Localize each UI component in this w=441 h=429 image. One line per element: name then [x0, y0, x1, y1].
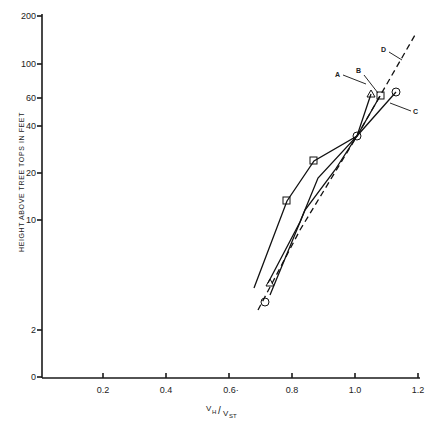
y-tick-20: 20: [26, 168, 36, 178]
svg-text:ST: ST: [229, 413, 237, 419]
x-tick-1.0: 1.0: [349, 385, 362, 395]
annotation-a: A: [335, 71, 340, 78]
x-tick-1.2: 1.2: [412, 385, 425, 395]
y-tick-100: 100: [21, 59, 36, 69]
annotation-c-leader: [390, 103, 411, 111]
square-marker: [377, 92, 384, 99]
y-axis-label: HEIGHT ABOVE TREE TOPS IN FEET: [18, 112, 25, 252]
x-tick-labels: 0.2 0.4 0.6· 0.8 1.0 1.2: [97, 385, 425, 395]
annotation-a-leader: [343, 75, 366, 84]
y-tick-40: 40: [26, 121, 36, 131]
annotation-d-leader: [389, 52, 402, 60]
y-tick-10: 10: [26, 215, 36, 225]
chart-canvas: 200 100 60 40 20 10 2 0 0.2 0.4 0.6· 0.8…: [0, 0, 441, 429]
annotation-c: C: [413, 108, 418, 115]
x-tick-0.6: 0.6·: [223, 385, 239, 395]
y-tick-200: 200: [21, 11, 36, 21]
y-tick-2: 2: [31, 325, 36, 335]
x-axis-label: V H / V ST: [206, 404, 237, 419]
x-tick-0.8: 0.8: [286, 385, 299, 395]
series-a-line: [268, 94, 371, 283]
x-tick-0.4: 0.4: [160, 385, 173, 395]
y-tick-60: 60: [26, 93, 36, 103]
y-tick-0: 0: [31, 372, 36, 382]
markers: [261, 88, 400, 306]
x-tick-0.2: 0.2: [97, 385, 110, 395]
series-c-line: [270, 92, 396, 295]
annotation-b: B: [356, 67, 361, 74]
svg-text:/: /: [218, 405, 221, 416]
annotation-d: D: [381, 46, 386, 53]
svg-text:H: H: [212, 409, 216, 415]
annotations: A B C D: [335, 46, 418, 115]
circle-marker: [261, 298, 269, 306]
